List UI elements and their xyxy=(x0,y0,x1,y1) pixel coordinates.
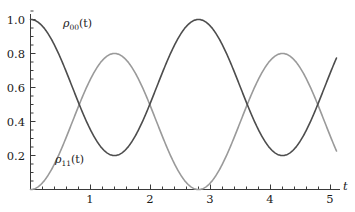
y-tick-label-5: 0.2 xyxy=(0,149,25,163)
x-tick-label-1: 1 xyxy=(78,192,102,206)
series-line-rho11 xyxy=(31,54,337,190)
x-tick-label-4: 4 xyxy=(258,192,282,206)
chart-svg xyxy=(0,0,355,212)
rho-subscript-00: 00 xyxy=(69,23,79,32)
x-tick-label-2: 2 xyxy=(138,192,162,206)
rho-arg-00: (t) xyxy=(79,17,92,30)
y-tick-label-3: 0.6 xyxy=(0,81,25,95)
rho-arg-11: (t) xyxy=(71,153,84,166)
series-line-rho00 xyxy=(31,20,337,156)
x-axis-name: t xyxy=(343,179,348,193)
chart-canvas: 1.0 0.8 0.6 0.4 0.2 1 2 3 4 5 t ρ00(t) ρ… xyxy=(0,0,355,212)
series-label-rho11: ρ11(t) xyxy=(55,153,84,168)
x-tick-label-5: 5 xyxy=(318,192,342,206)
y-tick-label-2: 0.8 xyxy=(0,47,25,61)
series-label-rho00: ρ00(t) xyxy=(63,17,92,32)
y-tick-label-4: 0.4 xyxy=(0,115,25,129)
y-tick-label-1: 1.0 xyxy=(0,13,25,27)
rho-subscript-11: 11 xyxy=(61,159,71,168)
x-tick-label-3: 3 xyxy=(198,192,222,206)
